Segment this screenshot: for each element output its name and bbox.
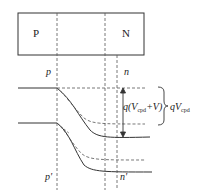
p-boundary-label: p — [45, 66, 51, 77]
pn-junction-band-diagram: P N p n p' n' q(Vcpd+V) qVcpd — [0, 0, 200, 196]
p-region-label: P — [33, 27, 39, 39]
depletion-boundaries — [57, 13, 117, 190]
n-region-label: N — [122, 27, 130, 39]
n-boundary-label: n — [124, 66, 129, 77]
contact-potential-label: qVcpd — [170, 101, 190, 113]
lower-band-edge-biased — [18, 123, 152, 172]
lower-band-edge-equilibrium — [57, 123, 145, 160]
p-prime-label: p' — [44, 171, 53, 182]
biased-potential-label: q(Vcpd+V) — [123, 101, 163, 113]
potential-arrow — [121, 88, 126, 137]
upper-band-edge-biased — [18, 88, 150, 137]
n-prime-label: n' — [120, 171, 128, 182]
